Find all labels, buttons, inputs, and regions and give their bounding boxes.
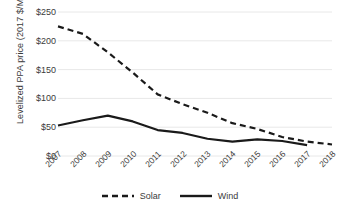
series-line-wind bbox=[58, 116, 307, 145]
legend-entry-wind[interactable]: Wind bbox=[179, 191, 239, 201]
legend-swatch-wind-icon bbox=[179, 192, 213, 200]
plot-svg bbox=[58, 12, 332, 156]
legend-label: Solar bbox=[140, 191, 161, 201]
y-axis-tick-label: $100 bbox=[36, 93, 56, 103]
y-axis-tick-label: $50 bbox=[41, 122, 56, 132]
chart-legend: SolarWind bbox=[0, 191, 339, 201]
y-axis-tick-label: $200 bbox=[36, 36, 56, 46]
gridlines bbox=[58, 12, 332, 156]
x-axis-tick-labels: 2007200820092010201120122013201420152016… bbox=[0, 156, 339, 192]
plot-area bbox=[58, 12, 332, 156]
legend-swatch-solar-icon bbox=[101, 192, 135, 200]
levelized-ppa-price-line-chart: Levelized PPA price (2017 $/MWh) $0$50$1… bbox=[0, 0, 339, 213]
legend-label: Wind bbox=[218, 191, 239, 201]
y-axis-tick-label: $250 bbox=[36, 7, 56, 17]
y-axis-tick-label: $150 bbox=[36, 65, 56, 75]
legend-entry-solar[interactable]: Solar bbox=[101, 191, 161, 201]
